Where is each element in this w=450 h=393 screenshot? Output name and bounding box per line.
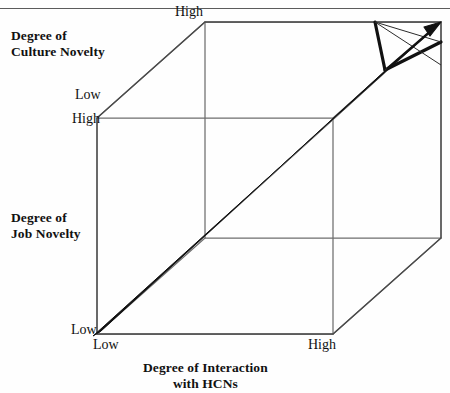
tick-culture-novelty-high: High [175, 4, 203, 21]
tick-culture-novelty-low: Low [75, 87, 101, 104]
tick-interaction-high: High [308, 337, 336, 354]
axis-title-culture-novelty: Degree of Culture Novelty [11, 28, 105, 60]
axis-title-culture-novelty-line2: Culture Novelty [11, 44, 105, 59]
tick-job-novelty-high: High [72, 111, 100, 128]
axis-title-interaction-line2: with HCNs [173, 376, 238, 391]
figure-page: Degree of Culture Novelty Degree of Job … [0, 0, 450, 393]
axis-title-interaction: Degree of Interaction with HCNs [143, 360, 268, 392]
main-diagonal-arrow [93, 22, 441, 336]
arrow-kite-left-strut [375, 22, 385, 70]
axis-title-job-novelty-line1: Degree of [11, 210, 67, 225]
diagonal-bold-body [93, 68, 388, 336]
axis-title-interaction-line1: Degree of Interaction [143, 360, 268, 375]
tick-interaction-low: Low [93, 337, 119, 354]
axis-title-culture-novelty-line1: Degree of [11, 28, 67, 43]
axis-title-job-novelty-line2: Job Novelty [11, 226, 81, 241]
axis-title-job-novelty: Degree of Job Novelty [11, 210, 81, 242]
